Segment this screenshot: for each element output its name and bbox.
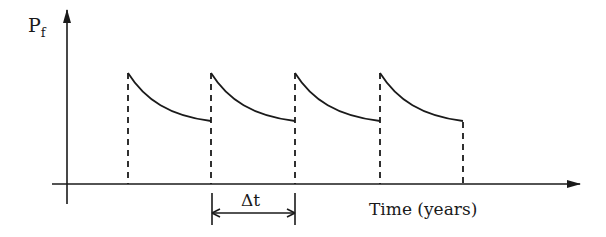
- dashed-markers: [128, 73, 463, 184]
- x-axis-label: Time (years): [369, 199, 477, 219]
- interval-label: Δt: [241, 190, 260, 210]
- decay-curve-1: [128, 73, 211, 121]
- pf-time-diagram: Pf Time (years) Δt: [0, 0, 606, 237]
- decay-curve-4: [380, 73, 463, 121]
- decay-curve-3: [295, 73, 380, 121]
- decay-curve-2: [211, 73, 295, 121]
- y-axis-label: Pf: [28, 14, 47, 40]
